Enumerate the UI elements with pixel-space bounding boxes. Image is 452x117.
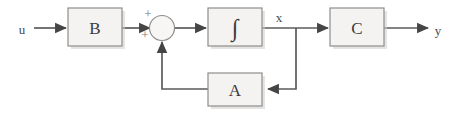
diagram-canvas: B ∫ C A + + u x y (0, 0, 452, 117)
summing-junction-sign-top: + (144, 6, 151, 21)
wire-state-feedback-to-a (268, 28, 296, 89)
block-integrator[interactable]: ∫ (208, 8, 265, 49)
summing-junction[interactable]: + + (141, 6, 174, 42)
signal-label-y: y (435, 23, 442, 38)
block-c[interactable]: C (330, 8, 387, 49)
signal-label-x: x (276, 10, 283, 25)
summing-junction-sign-bottom: + (141, 27, 148, 42)
block-b-label: B (89, 19, 100, 38)
signal-label-u: u (19, 22, 26, 37)
block-a-label: A (229, 81, 242, 100)
block-b[interactable]: B (68, 8, 125, 49)
wire-a-to-sum (162, 42, 208, 89)
block-diagram: B ∫ C A + + u x y (0, 0, 452, 117)
block-integrator-label: ∫ (230, 15, 240, 43)
block-c-label: C (351, 19, 362, 38)
block-a[interactable]: A (208, 73, 265, 109)
